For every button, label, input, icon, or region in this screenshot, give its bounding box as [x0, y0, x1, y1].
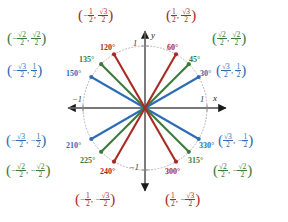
angle-label-210: 210° — [66, 142, 81, 150]
coord-label-240: (−12, −√32) — [75, 192, 115, 208]
coord-label-30: (√32, 12) — [216, 63, 246, 79]
coord-label-330: (√32, −12) — [218, 133, 253, 149]
coord-label-120: (−12, √32) — [78, 8, 113, 24]
angle-label-60: 60° — [167, 44, 178, 52]
coord-label-150: (−√32, 12) — [7, 63, 42, 79]
point-300 — [174, 160, 178, 164]
angle-label-150: 150° — [66, 70, 81, 78]
y-axis-label: y — [151, 31, 155, 40]
y-tick-label-pos: 1 — [133, 39, 137, 48]
angle-label-315: 315° — [188, 157, 203, 165]
coord-label-45: (√22, √22) — [212, 31, 246, 47]
x-tick-label-pos: 1 — [200, 95, 204, 104]
coord-label-300: (12, −√32) — [165, 192, 200, 208]
angle-label-135: 135° — [79, 56, 94, 64]
point-210 — [89, 137, 93, 141]
point-120 — [112, 52, 116, 56]
coord-label-225: (−√22, −√22) — [6, 163, 50, 179]
unit-circle-figure: 1 −1 1 −1 x y 60° 45° 30° 120° 135° 150°… — [0, 0, 288, 222]
angle-label-30: 30° — [200, 70, 211, 78]
point-315 — [187, 150, 191, 154]
y-tick-label-neg: −1 — [129, 163, 139, 172]
angle-label-330: 330° — [199, 142, 214, 150]
coord-label-60: (12, √32) — [166, 8, 196, 24]
point-135 — [99, 62, 103, 66]
point-225 — [99, 150, 103, 154]
x-axis-label: x — [213, 94, 217, 103]
point-60 — [174, 52, 178, 56]
coord-label-210: (−√32, −12) — [6, 133, 46, 149]
point-240 — [112, 160, 116, 164]
angle-label-300: 300° — [165, 168, 180, 176]
x-tick-label-neg: −1 — [72, 95, 82, 104]
coord-label-135: (−√22, √22) — [7, 31, 46, 47]
coord-label-315: (√22, −√22) — [213, 163, 252, 179]
angle-label-120: 120° — [100, 44, 115, 52]
angle-label-240: 240° — [100, 168, 115, 176]
angle-label-45: 45° — [189, 56, 200, 64]
point-150 — [89, 75, 93, 79]
angle-label-225: 225° — [80, 157, 95, 165]
